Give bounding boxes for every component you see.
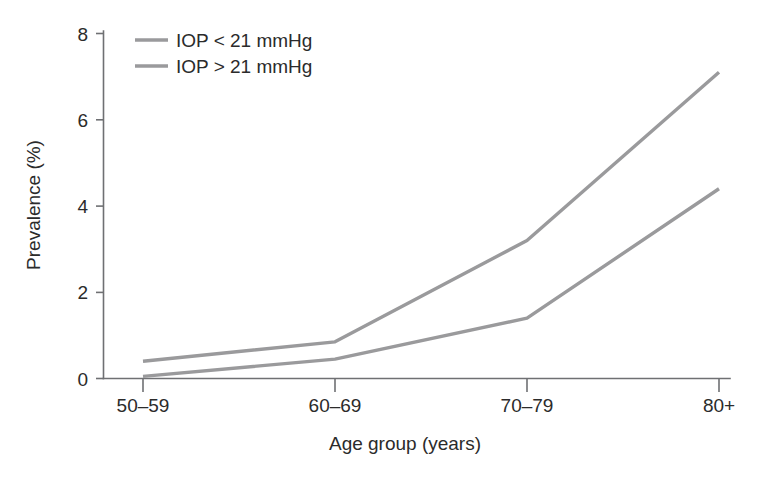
x-tick-label-70-79: 70–79 — [501, 395, 554, 416]
y-tick-labels: 8 6 4 2 0 — [77, 24, 88, 390]
x-axis-title: Age group (years) — [329, 433, 481, 454]
series-line-iop-gt-21 — [143, 189, 719, 377]
y-tick-marks — [96, 34, 104, 379]
legend-label-iop-gt-21: IOP > 21 mmHg — [176, 56, 312, 77]
line-chart-figure: 8 6 4 2 0 50–59 60–69 70–79 80+ Age grou… — [0, 0, 759, 478]
y-tick-label-6: 6 — [77, 110, 88, 131]
x-tick-label-60-69: 60–69 — [309, 395, 362, 416]
series-line-iop-lt-21 — [143, 72, 719, 361]
x-tick-label-80plus: 80+ — [703, 395, 735, 416]
chart-canvas: 8 6 4 2 0 50–59 60–69 70–79 80+ Age grou… — [0, 0, 759, 478]
y-tick-label-4: 4 — [77, 196, 88, 217]
legend: IOP < 21 mmHg IOP > 21 mmHg — [135, 30, 312, 77]
x-tick-marks — [143, 379, 719, 393]
legend-label-iop-lt-21: IOP < 21 mmHg — [176, 30, 312, 51]
x-tick-label-50-59: 50–59 — [117, 395, 170, 416]
data-series-group — [143, 72, 719, 376]
y-tick-label-8: 8 — [77, 24, 88, 45]
axes-group — [104, 31, 731, 379]
x-tick-labels: 50–59 60–69 70–79 80+ — [117, 395, 736, 416]
y-tick-label-2: 2 — [77, 282, 88, 303]
y-tick-label-0: 0 — [77, 369, 88, 390]
y-axis-title: Prevalence (%) — [23, 140, 44, 270]
